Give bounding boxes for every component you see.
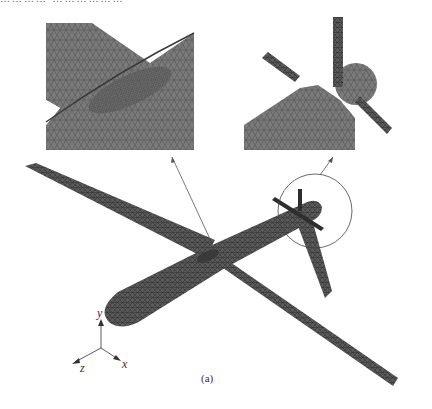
axis-label-y: y xyxy=(97,306,102,321)
axis-label-x: x xyxy=(122,357,127,372)
figure-drawing xyxy=(0,0,432,409)
figure-caption: (a) xyxy=(201,372,213,384)
aircraft-mesh xyxy=(25,163,398,386)
mesh-figure: ………… ……………… xyxy=(0,0,432,409)
inset-wing-root xyxy=(46,23,194,150)
cropped-heading-text: ………… ……………… xyxy=(0,0,432,3)
inset-propeller xyxy=(244,17,392,150)
axis-label-z: z xyxy=(80,361,85,376)
axis-triad xyxy=(72,319,121,364)
